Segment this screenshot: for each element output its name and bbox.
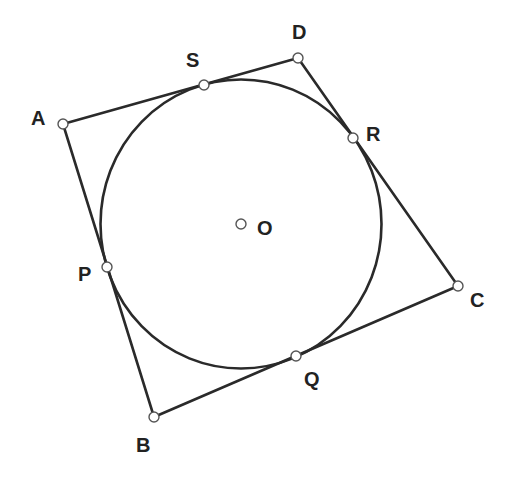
side-da bbox=[63, 58, 298, 124]
point-o bbox=[236, 219, 246, 229]
label-d: D bbox=[292, 21, 306, 43]
point-d bbox=[293, 53, 303, 63]
label-p: P bbox=[78, 263, 91, 285]
label-o: O bbox=[257, 217, 273, 239]
point-a bbox=[58, 119, 68, 129]
inscribed-circle-diagram: A B C D S R Q P O bbox=[0, 0, 511, 482]
label-q: Q bbox=[304, 368, 320, 390]
label-a: A bbox=[31, 107, 45, 129]
label-s: S bbox=[186, 49, 199, 71]
label-b: B bbox=[136, 434, 150, 456]
point-p bbox=[102, 262, 112, 272]
point-s bbox=[199, 80, 209, 90]
point-q bbox=[291, 351, 301, 361]
label-r: R bbox=[366, 123, 381, 145]
point-c bbox=[453, 281, 463, 291]
point-b bbox=[149, 412, 159, 422]
label-c: C bbox=[470, 289, 484, 311]
point-r bbox=[348, 133, 358, 143]
